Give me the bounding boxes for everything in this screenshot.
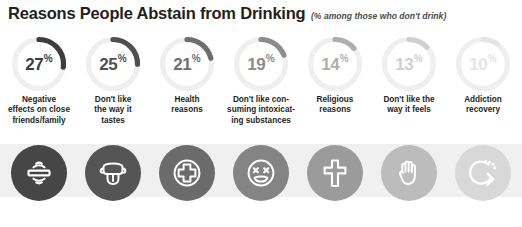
stat-column: 27%Negativeeffects on closefriends/famil… — [2, 30, 76, 227]
percent-number: 10 — [469, 56, 487, 73]
stat-column: 14%Religiousreasons — [298, 30, 372, 227]
stat-label-line: reasons — [298, 105, 372, 115]
chart-header: Reasons People Abstain from Drinking (% … — [0, 0, 522, 30]
stat-label-line: recovery — [446, 105, 520, 115]
percent-number: 25 — [99, 56, 117, 73]
stat-label-line: Health — [150, 95, 224, 105]
stat-label: Negativeeffects on closefriends/family — [2, 95, 76, 137]
percent-number: 14 — [321, 56, 339, 73]
percent-symbol: % — [118, 54, 127, 64]
percent-value: 10% — [449, 35, 517, 93]
stat-label-line: ing substances — [224, 116, 298, 126]
stat-label-line: Don't like con- — [224, 95, 298, 105]
stat-column: 13%Don't like theway it feels — [372, 30, 446, 227]
percent-number: 27 — [25, 56, 43, 73]
stat-column: 10%Addictionrecovery — [446, 30, 520, 227]
tongue-taste-icon — [85, 145, 141, 201]
percent-number: 21 — [173, 56, 191, 73]
stat-label: Don't like con-suming intoxicat-ing subs… — [224, 95, 298, 137]
stat-label-line: reasons — [150, 105, 224, 115]
stat-label-line: suming intoxicat- — [224, 105, 298, 115]
stat-label-line: Don't like the — [372, 95, 446, 105]
stat-column: 21%Healthreasons — [150, 30, 224, 227]
donut-chart: 14% — [301, 35, 369, 93]
stat-label: Don't likethe way ittastes — [76, 95, 150, 137]
percent-value: 21% — [153, 35, 221, 93]
percent-symbol: % — [340, 54, 349, 64]
donut-chart: 25% — [79, 35, 147, 93]
stat-label-line: friends/family — [2, 116, 76, 126]
stat-columns: 27%Negativeeffects on closefriends/famil… — [0, 30, 522, 227]
stat-column: 19%Don't like con-suming intoxicat-ing s… — [224, 30, 298, 227]
stat-label-line: way it feels — [372, 105, 446, 115]
percent-symbol: % — [192, 54, 201, 64]
stat-label-line: Religious — [298, 95, 372, 105]
stat-label-line: Negative — [2, 95, 76, 105]
stat-column: 25%Don't likethe way ittastes — [76, 30, 150, 227]
cross-icon — [307, 145, 363, 201]
stat-label: Don't like theway it feels — [372, 95, 446, 137]
broken-bond-icon — [11, 145, 67, 201]
stop-hand-icon — [381, 145, 437, 201]
stat-label: Addictionrecovery — [446, 95, 520, 137]
percent-number: 19 — [247, 56, 265, 73]
donut-chart: 13% — [375, 35, 443, 93]
percent-symbol: % — [44, 54, 53, 64]
stat-label-line: Don't like — [76, 95, 150, 105]
stat-label-line: the way it — [76, 105, 150, 115]
stat-label-line: effects on close — [2, 105, 76, 115]
percent-value: 13% — [375, 35, 443, 93]
medical-cross-icon — [159, 145, 215, 201]
percent-value: 14% — [301, 35, 369, 93]
donut-chart: 10% — [449, 35, 517, 93]
chart-subtitle: (% among those who don't drink) — [311, 11, 446, 21]
stat-label-line: Addiction — [446, 95, 520, 105]
stat-label: Healthreasons — [150, 95, 224, 137]
donut-chart: 19% — [227, 35, 295, 93]
stat-label-line: tastes — [76, 116, 150, 126]
percent-symbol: % — [266, 54, 275, 64]
donut-chart: 21% — [153, 35, 221, 93]
percent-symbol: % — [488, 54, 497, 64]
percent-symbol: % — [414, 54, 423, 64]
donut-chart: 27% — [5, 35, 73, 93]
percent-value: 19% — [227, 35, 295, 93]
page-title: Reasons People Abstain from Drinking — [8, 4, 306, 23]
percent-value: 25% — [79, 35, 147, 93]
stat-label: Religiousreasons — [298, 95, 372, 137]
percent-number: 13 — [395, 56, 413, 73]
sick-face-icon — [233, 145, 289, 201]
recovery-arrow-icon — [455, 145, 511, 201]
percent-value: 27% — [5, 35, 73, 93]
